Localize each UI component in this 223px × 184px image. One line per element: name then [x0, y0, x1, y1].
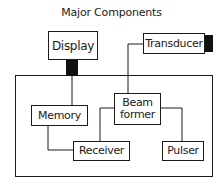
- transducer-tip: [205, 35, 213, 52]
- beamformer-box: Beam former: [114, 93, 161, 125]
- transducer-box: Transducer: [143, 33, 205, 54]
- pulser-box: Pulser: [162, 141, 204, 161]
- receiver-label: Receiver: [79, 145, 124, 157]
- beamformer-label-line2: former: [120, 109, 155, 121]
- receiver-box: Receiver: [73, 141, 130, 161]
- memory-label: Memory: [38, 110, 81, 122]
- transducer-label: Transducer: [145, 38, 202, 50]
- display-label: Display: [52, 40, 94, 52]
- memory-box: Memory: [31, 105, 88, 126]
- display-box: Display: [48, 31, 98, 60]
- pulser-label: Pulser: [167, 145, 199, 157]
- display-connector: [66, 59, 78, 76]
